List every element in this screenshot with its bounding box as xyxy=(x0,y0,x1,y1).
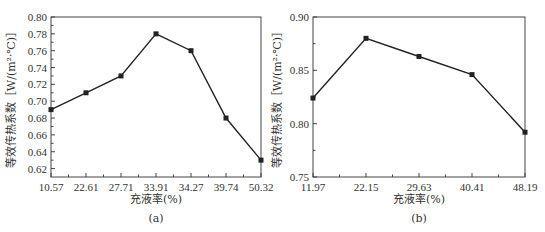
panel-label: (b) xyxy=(411,212,427,225)
x-tick-label: 11.97 xyxy=(301,181,326,193)
panel-label: (a) xyxy=(148,212,163,225)
x-tick-label: 39.74 xyxy=(214,181,239,193)
data-point-marker xyxy=(523,130,528,135)
y-tick-label: 0.64 xyxy=(28,146,48,158)
y-tick-label: 0.78 xyxy=(28,28,48,40)
x-tick-label: 48.19 xyxy=(513,181,538,193)
y-tick-label: 0.90 xyxy=(290,11,310,23)
data-line xyxy=(313,38,525,132)
data-point-marker xyxy=(259,158,264,163)
plot-frame xyxy=(51,17,261,177)
data-point-marker xyxy=(311,96,316,101)
x-tick-label: 40.41 xyxy=(460,181,485,193)
data-point-marker xyxy=(224,116,229,121)
data-point-marker xyxy=(470,72,475,77)
chart-panel-a: 0.620.640.660.680.700.720.740.760.780.80… xyxy=(4,11,273,225)
x-tick-label: 10.57 xyxy=(39,181,64,193)
x-tick-label: 29.63 xyxy=(407,181,432,193)
x-tick-label: 50.32 xyxy=(249,181,274,193)
y-axis-label: 等效传热系数［W/(m²·℃)］ xyxy=(270,26,284,168)
data-point-marker xyxy=(364,36,369,41)
x-tick-label: 22.15 xyxy=(354,181,379,193)
data-point-marker xyxy=(84,90,89,95)
y-tick-label: 0.74 xyxy=(28,62,48,74)
y-tick-label: 0.76 xyxy=(28,45,48,57)
data-point-marker xyxy=(417,54,422,59)
y-tick-label: 0.85 xyxy=(290,64,310,76)
x-tick-label: 33.91 xyxy=(144,181,169,193)
x-axis-label: 充液率(%) xyxy=(130,192,182,206)
x-tick-label: 34.27 xyxy=(179,181,204,193)
data-point-marker xyxy=(154,31,159,36)
x-tick-label: 27.71 xyxy=(109,181,134,193)
figure: 0.620.640.660.680.700.720.740.760.780.80… xyxy=(0,0,545,232)
x-axis-label: 充液率(%) xyxy=(393,192,445,206)
data-point-marker xyxy=(119,73,124,78)
data-line xyxy=(51,34,261,160)
y-tick-label: 0.72 xyxy=(28,78,47,90)
y-axis-label: 等效传热系数［W/(m²·℃)］ xyxy=(4,26,18,168)
y-tick-label: 0.66 xyxy=(28,129,48,141)
chart-panel-b: 0.750.800.850.9011.9722.1529.6340.4148.1… xyxy=(270,11,538,225)
data-point-marker xyxy=(49,107,54,112)
y-tick-label: 0.80 xyxy=(290,118,310,130)
x-tick-label: 22.61 xyxy=(74,181,99,193)
y-tick-label: 0.80 xyxy=(28,11,48,23)
y-tick-label: 0.70 xyxy=(28,95,48,107)
y-tick-label: 0.68 xyxy=(28,112,48,124)
data-point-marker xyxy=(189,48,194,53)
y-tick-label: 0.62 xyxy=(28,163,47,175)
